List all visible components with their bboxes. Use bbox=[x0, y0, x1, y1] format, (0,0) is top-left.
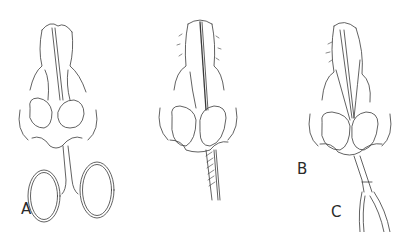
panel-c: C bbox=[264, 0, 404, 232]
panel-b: B bbox=[130, 0, 270, 232]
nose-with-blade-illustration bbox=[130, 0, 270, 232]
nose-with-scissors-illustration bbox=[0, 0, 140, 232]
panel-label-a: A bbox=[21, 202, 31, 217]
nose-with-elevator-illustration bbox=[264, 0, 404, 232]
panel-a: A bbox=[0, 0, 140, 232]
figure-canvas: A B bbox=[0, 0, 404, 232]
panel-label-c: C bbox=[331, 205, 341, 220]
